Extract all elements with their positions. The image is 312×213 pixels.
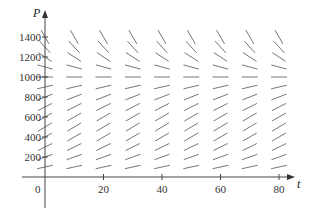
y-ticks: 200400600800100012001400 — [19, 31, 48, 163]
slope-segment — [154, 65, 169, 69]
y-tick-label: 1200 — [19, 51, 42, 63]
slope-segment — [184, 133, 198, 141]
origin-label: 0 — [35, 183, 41, 195]
slope-segment — [97, 123, 111, 131]
slope-segment — [67, 85, 83, 89]
slope-segment — [272, 113, 286, 121]
slope-segment — [184, 113, 198, 121]
slope-segment — [184, 154, 199, 159]
slope-segment — [214, 113, 228, 121]
slope-segment — [154, 165, 170, 168]
slope-segment — [214, 133, 228, 141]
slope-segment — [184, 85, 200, 89]
x-axis-arrow-icon — [287, 174, 295, 180]
slope-segment — [155, 94, 170, 100]
slope-segment — [155, 113, 169, 121]
slope-segment — [68, 53, 82, 62]
slope-segment — [187, 30, 195, 44]
slope-segment — [184, 103, 198, 110]
slope-segment — [243, 133, 257, 141]
slope-segment — [272, 123, 286, 131]
slope-segment — [246, 30, 254, 44]
slope-segment — [243, 53, 257, 62]
slope-segment — [67, 144, 81, 151]
slope-segment — [242, 94, 257, 100]
slope-segment — [125, 165, 141, 168]
slope-segment — [154, 85, 170, 89]
slope-segment — [155, 123, 169, 131]
slope-segment — [217, 30, 225, 44]
slope-segment — [129, 30, 137, 44]
slope-segment — [184, 144, 198, 151]
slope-segment — [214, 123, 228, 131]
slope-segment — [271, 65, 286, 69]
slope-segment — [272, 103, 286, 110]
slope-segment — [97, 53, 110, 62]
slope-segment — [183, 165, 199, 168]
slope-segment — [213, 154, 228, 159]
slope-segment — [125, 154, 140, 159]
slope-segment — [67, 94, 82, 100]
slope-segment — [272, 144, 286, 151]
slope-segment — [214, 53, 227, 62]
axes: 20406080 200400600800100012001400 t P 0 — [19, 6, 301, 208]
y-tick-label: 600 — [25, 111, 42, 123]
slope-segment — [97, 133, 111, 141]
slope-segment — [67, 113, 81, 121]
slope-segment — [213, 65, 228, 69]
slope-segment — [67, 103, 81, 110]
y-axis-arrow-icon — [42, 10, 48, 18]
slope-segment — [272, 94, 287, 100]
slope-segment — [155, 103, 169, 110]
slope-segment — [126, 103, 140, 110]
slope-field-chart: 20406080 200400600800100012001400 t P 0 — [0, 0, 312, 213]
slope-segment — [96, 144, 110, 151]
slope-segment — [155, 144, 169, 151]
x-tick-label: 80 — [274, 183, 286, 195]
slope-segment — [213, 94, 228, 100]
slope-segment — [242, 65, 258, 69]
slope-segment — [272, 133, 286, 141]
slope-segment — [67, 123, 81, 131]
slope-segment — [272, 53, 285, 62]
slope-segment — [126, 144, 140, 151]
y-tick-label: 400 — [25, 131, 42, 143]
slope-segment — [155, 154, 170, 159]
slope-segment — [155, 133, 169, 141]
slope-segment — [185, 53, 199, 62]
slope-segment — [213, 165, 229, 168]
slope-segment — [100, 30, 108, 44]
x-axis-label: t — [297, 177, 301, 191]
slope-segment — [213, 103, 227, 110]
slope-segment — [67, 65, 83, 69]
x-tick-label: 40 — [157, 183, 169, 195]
slope-segment — [184, 65, 200, 69]
slope-segment — [67, 133, 81, 141]
slope-segment — [213, 144, 227, 151]
y-axis-label: P — [32, 6, 41, 20]
slope-segment — [126, 123, 140, 131]
y-tick-label: 200 — [25, 151, 42, 163]
slope-segment — [242, 85, 258, 89]
direction-field-segments — [37, 30, 287, 169]
slope-segment — [125, 65, 141, 69]
slope-segment — [67, 154, 82, 159]
slope-segment — [213, 85, 229, 89]
slope-segment — [271, 165, 287, 168]
slope-segment — [275, 30, 283, 44]
x-tick-label: 20 — [98, 183, 110, 195]
slope-segment — [96, 94, 111, 100]
x-tick-label: 60 — [215, 183, 227, 195]
slope-segment — [243, 123, 257, 131]
slope-segment — [155, 53, 168, 62]
slope-segment — [184, 123, 198, 131]
y-tick-label: 1400 — [19, 31, 42, 43]
slope-segment — [184, 94, 199, 100]
slope-segment — [243, 113, 257, 121]
y-tick-label: 800 — [25, 91, 42, 103]
slope-segment — [158, 30, 166, 44]
slope-segment — [97, 113, 111, 121]
y-tick-label: 1000 — [19, 71, 42, 83]
slope-segment — [126, 133, 140, 141]
slope-segment — [96, 65, 111, 69]
